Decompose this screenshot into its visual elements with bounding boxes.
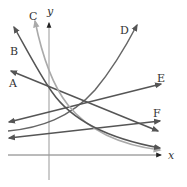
curve-f <box>9 121 160 138</box>
y-axis-label: y <box>46 5 54 18</box>
function-graph-figure: x y D E F A C B <box>0 0 187 187</box>
curve-e-label: E <box>157 72 165 85</box>
curve-f-label: F <box>153 107 161 120</box>
x-axis-label: x <box>168 149 175 162</box>
curve-c <box>35 21 160 150</box>
curve-c-label: C <box>29 10 37 23</box>
curve-a-label: A <box>8 77 18 90</box>
curve-b-label: B <box>10 45 18 58</box>
curve-e <box>9 84 161 122</box>
curve-d-label: D <box>120 24 129 37</box>
